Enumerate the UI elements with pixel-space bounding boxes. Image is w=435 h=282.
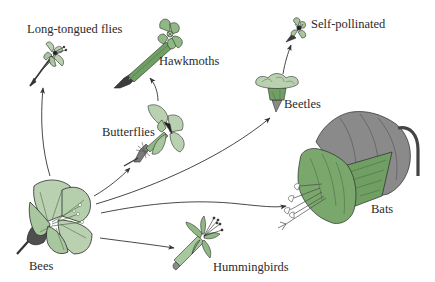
pollination-diagram: Long-tongued flies Hawkmoths Butterflies… (0, 0, 435, 282)
label-hawkmoths: Hawkmoths (159, 55, 219, 68)
arrow-bees-to-hummingbirds (100, 238, 174, 248)
arrow-beetles-to-self (283, 45, 291, 74)
long-tongued-flies-flower-illustration (30, 42, 67, 86)
arrow-bees-to-bats (101, 202, 286, 213)
arrow-bees-to-flies (42, 88, 50, 176)
label-hummingbirds: Hummingbirds (213, 261, 289, 274)
diagram-artwork (0, 0, 435, 282)
label-bats: Bats (371, 203, 393, 216)
label-beetles: Beetles (284, 98, 321, 111)
bees-flower-illustration (17, 180, 92, 254)
arrow-butterflies-to-hawkmoths (150, 78, 158, 101)
label-bees: Bees (29, 260, 53, 273)
arrow-bees-to-butterflies (94, 168, 130, 196)
label-self-pollinated: Self-pollinated (311, 18, 385, 31)
label-butterflies: Butterflies (102, 126, 155, 139)
label-long-tongued-flies: Long-tongued flies (27, 23, 122, 36)
bats-flower-illustration (278, 112, 418, 231)
self-pollinated-flower-illustration (286, 18, 306, 42)
